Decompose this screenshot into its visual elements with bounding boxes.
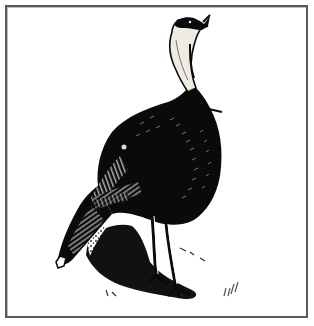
- neck-and-head: [170, 15, 210, 92]
- turkey-illustration: [0, 0, 314, 326]
- body: [90, 84, 222, 225]
- ground-shadow: [84, 225, 205, 299]
- artist-signature: [224, 282, 238, 296]
